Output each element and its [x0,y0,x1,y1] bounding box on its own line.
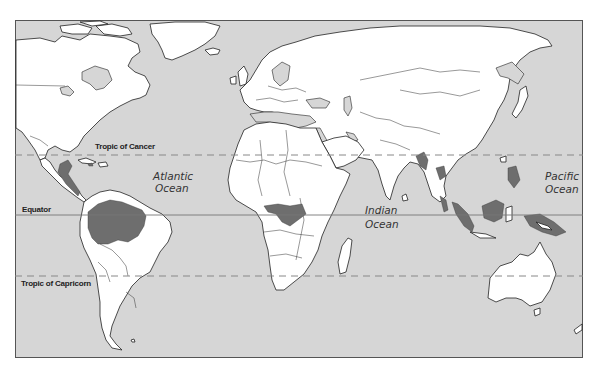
label-tropic-of-capricorn: Tropic of Capricorn [21,279,91,288]
label-atlantic-ocean-line1: Atlantic [152,170,193,182]
label-tropic-of-cancer: Tropic of Cancer [95,142,155,151]
label-pacific-ocean-line1: Pacific [545,170,579,182]
label-indian-ocean-line1: Indian [365,204,397,216]
world-map: Tropic of Cancer Equator Tropic of Capri… [15,20,583,358]
label-equator: Equator [22,205,51,214]
label-pacific-ocean-line2: Ocean [545,183,579,195]
label-indian-ocean-line2: Ocean [365,218,399,230]
label-atlantic-ocean-line2: Ocean [155,182,189,194]
